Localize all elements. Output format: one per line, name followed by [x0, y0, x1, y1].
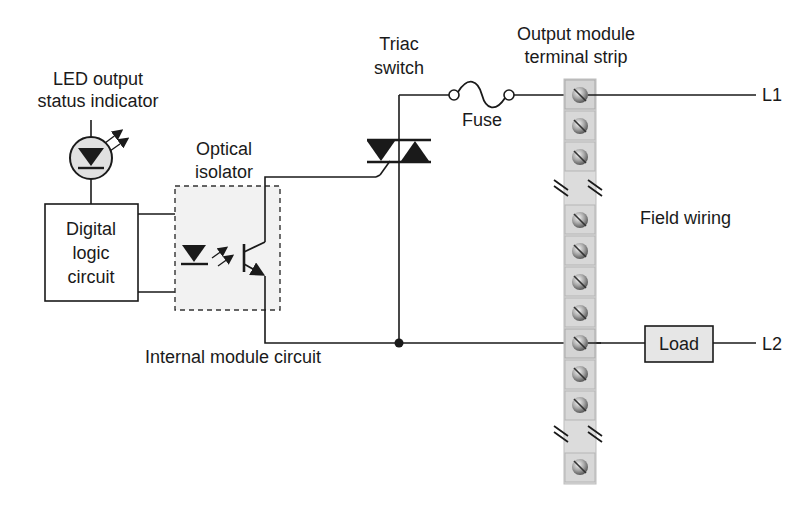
junction-dot [395, 339, 404, 348]
load-label: Load [659, 334, 699, 354]
l1-label: L1 [762, 85, 782, 105]
terminal-screw[interactable] [565, 236, 595, 265]
field-wiring-label: Field wiring [640, 208, 731, 228]
triac-label-1: Triac [379, 34, 418, 54]
terminal-screw[interactable] [565, 360, 595, 389]
fuse-label: Fuse [462, 110, 502, 130]
terminal-strip-label-2: terminal strip [524, 47, 627, 67]
digital-logic-circuit: Digital logic circuit [45, 204, 138, 301]
load: Load [645, 326, 713, 362]
terminal-screw[interactable] [565, 205, 595, 234]
terminal-screw[interactable] [565, 111, 595, 140]
triac-switch: Triac switch [367, 34, 431, 348]
digital-logic-label-2: logic [72, 243, 109, 263]
triac-icon [367, 141, 395, 161]
led-indicator-label-2: status indicator [37, 91, 158, 111]
internal-module-circuit-label: Internal module circuit [145, 347, 321, 367]
triac-label-2: switch [374, 58, 424, 78]
terminal-screw[interactable] [565, 142, 595, 171]
terminal-screw[interactable] [565, 391, 595, 420]
led-indicator-label-1: LED output [53, 69, 143, 89]
output-terminal-strip: Output module terminal strip [517, 24, 635, 484]
digital-logic-label-3: circuit [67, 267, 114, 287]
terminal-screw[interactable] [565, 453, 595, 482]
terminal-screw[interactable] [565, 298, 595, 327]
terminal-screw[interactable] [565, 267, 595, 296]
terminal-strip-label-1: Output module [517, 24, 635, 44]
digital-logic-label-1: Digital [66, 219, 116, 239]
led-status-indicator: LED output status indicator [37, 69, 158, 204]
optical-isolator-label-2: isolator [195, 162, 253, 182]
optical-isolator-label-1: Optical [196, 139, 252, 159]
plc-output-module-diagram: LED output status indicator Digital logi… [0, 0, 809, 507]
l2-label: L2 [762, 334, 782, 354]
fuse: Fuse [449, 82, 514, 130]
